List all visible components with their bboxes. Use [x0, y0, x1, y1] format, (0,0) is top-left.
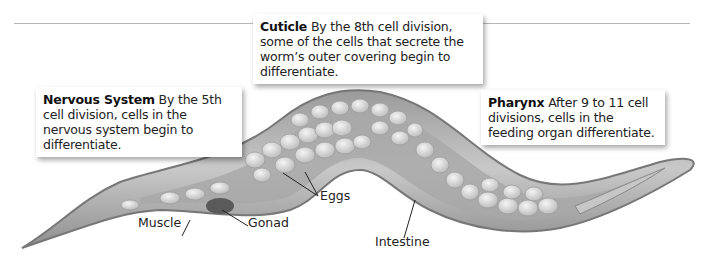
- gonad-shape: [206, 198, 234, 214]
- callout-nervous-system: Nervous System By the 5th cell division,…: [36, 87, 242, 157]
- label-intestine: Intestine: [375, 234, 430, 249]
- label-muscle: Muscle: [138, 215, 181, 230]
- label-eggs: Eggs: [320, 188, 350, 203]
- callout-cuticle: Cuticle By the 8th cell division, some o…: [253, 14, 483, 84]
- label-gonad: Gonad: [248, 215, 289, 230]
- callout-title: Cuticle: [260, 19, 307, 34]
- callout-pharynx: Pharynx After 9 to 11 cell divisions, ce…: [481, 90, 665, 145]
- callout-title: Pharynx: [488, 95, 544, 110]
- callout-title: Nervous System: [43, 92, 155, 107]
